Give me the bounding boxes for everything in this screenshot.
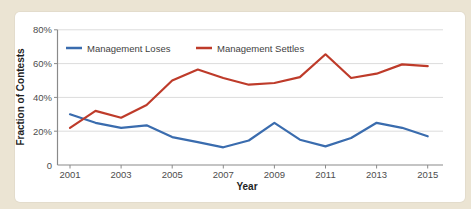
chart-canvas: 020%40%60%80%200120032005200720092011201… [0,0,471,209]
x-tick-label: 2009 [264,169,285,180]
y-axis-title: Fraction of Contests [15,48,26,146]
x-tick-label: 2013 [366,169,387,180]
x-tick-label: 2005 [162,169,183,180]
y-tick-label: 40% [33,92,53,103]
y-tick-label: 60% [33,58,53,69]
x-tick-label: 2015 [417,169,438,180]
y-tick-label: 0 [47,160,52,171]
x-tick-label: 2003 [111,169,132,180]
x-axis-title: Year [236,181,257,192]
y-tick-label: 20% [33,126,53,137]
x-tick-label: 2001 [59,169,80,180]
x-tick-label: 2011 [315,169,335,180]
legend-label-management-settles: Management Settles [217,43,304,54]
series-line-management-settles [70,54,428,128]
legend-label-management-loses: Management Loses [87,43,171,54]
y-tick-label: 80% [33,24,53,35]
x-tick-label: 2007 [213,169,234,180]
